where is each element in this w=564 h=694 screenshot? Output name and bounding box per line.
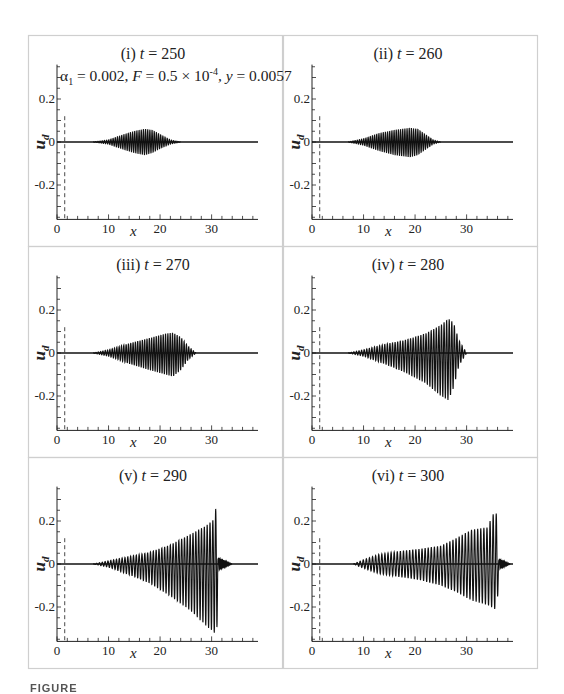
panel-6: 01020300.20-0.2xud(vi) t = 300 <box>284 458 538 669</box>
x-axis-label: x <box>129 645 137 661</box>
x-tick-label: 30 <box>205 221 218 236</box>
wave-packet-series <box>93 509 232 633</box>
wave-packet-series <box>93 130 181 155</box>
x-tick-label: 30 <box>460 643 473 658</box>
y-axis-label: ud <box>30 134 51 149</box>
y-axis-label: ud <box>285 556 306 571</box>
panel-title: (ii) t = 260 <box>373 45 442 63</box>
x-axis-label: x <box>129 223 137 239</box>
x-tick-label: 20 <box>409 643 422 658</box>
x-axis-label: x <box>384 223 392 239</box>
x-axis-label: x <box>384 645 392 661</box>
x-tick-label: 10 <box>102 221 115 236</box>
x-tick-label: 0 <box>54 643 61 658</box>
x-tick-label: 30 <box>460 432 473 447</box>
x-tick-label: 30 <box>460 221 473 236</box>
x-tick-label: 0 <box>309 432 316 447</box>
figure-caption: FIGURE <box>30 682 78 694</box>
panel-2: 01020300.20-0.2xud(ii) t = 260 <box>284 36 538 247</box>
x-tick-label: 10 <box>357 221 370 236</box>
y-tick-label: 0.2 <box>39 91 55 106</box>
y-tick-label: 0.2 <box>294 513 310 528</box>
y-axis-label: ud <box>285 134 306 149</box>
x-tick-label: 10 <box>102 432 115 447</box>
panel-3: 01020300.20-0.2xud(iii) t = 270 <box>29 247 283 458</box>
x-tick-label: 10 <box>357 643 370 658</box>
x-tick-label: 10 <box>357 432 370 447</box>
panel-title: (iii) t = 270 <box>116 256 189 274</box>
x-tick-label: 0 <box>54 432 61 447</box>
y-tick-label: 0.2 <box>294 91 310 106</box>
y-tick-label: -0.2 <box>289 177 310 192</box>
panel-title: (i) t = 250 <box>121 45 186 63</box>
wave-packet-series <box>348 319 466 400</box>
x-tick-label: 10 <box>102 643 115 658</box>
wave-packet-series <box>353 513 510 609</box>
x-axis-label: x <box>384 434 392 450</box>
wave-packet-series <box>93 333 196 376</box>
x-tick-label: 0 <box>309 221 316 236</box>
y-tick-label: 0.2 <box>39 302 55 317</box>
y-tick-label: -0.2 <box>34 599 55 614</box>
panel-title: (vi) t = 300 <box>372 467 445 485</box>
panel-title: (iv) t = 280 <box>372 256 445 274</box>
x-axis-label: x <box>129 434 137 450</box>
x-tick-label: 30 <box>205 643 218 658</box>
x-tick-label: 30 <box>205 432 218 447</box>
y-axis-label: ud <box>30 345 51 360</box>
y-axis-label: ud <box>30 556 51 571</box>
x-tick-label: 0 <box>309 643 316 658</box>
x-tick-label: 20 <box>154 643 167 658</box>
panel-title: (v) t = 290 <box>119 467 187 485</box>
x-tick-label: 20 <box>409 432 422 447</box>
x-tick-label: 20 <box>154 432 167 447</box>
wave-packet-series <box>348 128 441 156</box>
y-tick-label: 0.2 <box>39 513 55 528</box>
parameter-annotation: α1 = 0.002, F = 0.5 × 10-4, y = 0.0057 <box>60 66 292 87</box>
y-tick-label: -0.2 <box>289 599 310 614</box>
y-tick-label: 0.2 <box>294 302 310 317</box>
x-tick-label: 0 <box>54 221 61 236</box>
y-axis-label: ud <box>285 345 306 360</box>
y-tick-label: -0.2 <box>289 388 310 403</box>
x-tick-label: 20 <box>409 221 422 236</box>
y-tick-label: -0.2 <box>34 177 55 192</box>
panel-5: 01020300.20-0.2xud(v) t = 290 <box>29 458 283 669</box>
y-tick-label: -0.2 <box>34 388 55 403</box>
panel-4: 01020300.20-0.2xud(iv) t = 280 <box>284 247 538 458</box>
x-tick-label: 20 <box>154 221 167 236</box>
